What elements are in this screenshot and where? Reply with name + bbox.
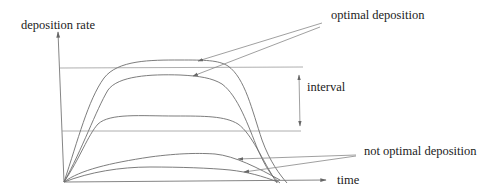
optimal-pointer-upper	[198, 23, 322, 61]
interval-label: interval	[307, 80, 346, 94]
deposition-rate-diagram: deposition rate time interval optimal de…	[0, 0, 488, 194]
upper-threshold-line	[60, 67, 303, 68]
y-axis-label: deposition rate	[21, 18, 95, 32]
optimal-deposition-label: optimal deposition	[331, 8, 425, 22]
optimal-pointer-lower	[193, 27, 320, 76]
y-axis	[58, 32, 64, 182]
interval-arrow	[299, 75, 300, 126]
x-axis	[64, 180, 326, 182]
not-optimal-deposition-label: not optimal deposition	[364, 144, 477, 158]
x-axis-label: time	[337, 173, 360, 187]
not-optimal-curve-upper	[64, 153, 280, 182]
optimal-curve-upper	[64, 60, 287, 183]
not-optimal-curve-lower	[64, 167, 278, 182]
